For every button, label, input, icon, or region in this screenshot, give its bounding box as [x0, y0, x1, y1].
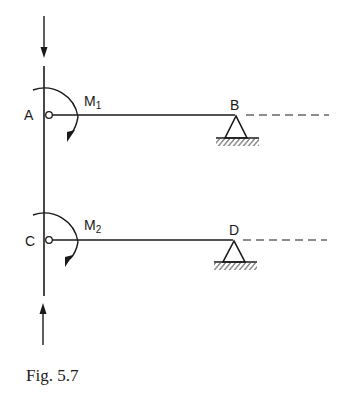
- figure-caption: Fig. 5.7: [26, 366, 79, 385]
- support-b: [216, 116, 259, 146]
- top-load-arrow: [41, 16, 48, 58]
- joint-a: [46, 112, 53, 119]
- joint-c: [46, 237, 53, 244]
- label-m1: M1: [84, 93, 102, 111]
- label-b: B: [230, 97, 239, 113]
- support-d: [214, 241, 257, 270]
- label-a: A: [24, 107, 34, 123]
- bottom-load-arrow: [40, 303, 47, 345]
- label-c: C: [25, 233, 35, 249]
- label-m2: M2: [84, 217, 102, 235]
- structural-diagram: A M1 B C M2 D Fig. 5.7: [0, 0, 346, 398]
- label-d: D: [229, 222, 239, 238]
